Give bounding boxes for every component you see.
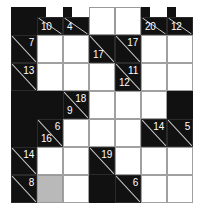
block-cell (11, 119, 37, 147)
entry-cell[interactable] (141, 91, 167, 119)
clue-down-number: 17 (93, 50, 104, 60)
clue-cell: 1112 (115, 63, 141, 91)
clue-across-number: 6 (133, 178, 138, 188)
kakuro-grid[interactable]: 104201271717131112189616145141986 (11, 7, 193, 203)
clue-cell: 8 (11, 175, 37, 203)
entry-cell[interactable] (37, 35, 63, 63)
outside-cell (89, 7, 115, 35)
clue-cell: 14 (141, 119, 167, 147)
clue-across-number: 7 (29, 38, 34, 48)
clue-cell: 7 (11, 35, 37, 63)
clue-down-number: 10 (41, 22, 52, 32)
block-cell (167, 91, 193, 119)
entry-cell[interactable] (167, 147, 193, 175)
clue-across-number: 13 (23, 66, 34, 76)
clue-cell: 616 (37, 119, 63, 147)
entry-cell[interactable] (141, 35, 167, 63)
clue-down-number: 12 (171, 22, 182, 32)
entry-cell[interactable] (141, 63, 167, 91)
clue-across-number: 17 (127, 38, 138, 48)
clue-down-number: 16 (41, 134, 52, 144)
clue-across-number: 14 (153, 122, 164, 132)
clue-down-number: 12 (119, 78, 130, 88)
highlighted-entry-cell[interactable] (37, 175, 63, 203)
clue-across-number: 6 (55, 122, 60, 132)
block-cell (89, 175, 115, 203)
entry-cell[interactable] (37, 63, 63, 91)
clue-cell: 5 (167, 119, 193, 147)
entry-cell[interactable] (63, 35, 89, 63)
entry-cell[interactable] (63, 175, 89, 203)
clue-down-number: 9 (67, 106, 72, 116)
clue-cell: 20 (141, 7, 167, 35)
clue-across-number: 19 (101, 150, 112, 160)
clue-across-number: 8 (29, 178, 34, 188)
clue-cell: 17 (89, 35, 115, 63)
entry-cell[interactable] (115, 147, 141, 175)
clue-across-number: 18 (75, 94, 86, 104)
entry-cell[interactable] (141, 147, 167, 175)
block-cell (37, 91, 63, 119)
clue-cell: 19 (89, 147, 115, 175)
entry-cell[interactable] (37, 147, 63, 175)
entry-cell[interactable] (89, 119, 115, 147)
clue-cell: 17 (115, 35, 141, 63)
clue-cell: 13 (11, 63, 37, 91)
clue-cell: 12 (167, 7, 193, 35)
clue-down-number: 4 (67, 22, 72, 32)
clue-cell: 4 (63, 7, 89, 35)
entry-cell[interactable] (115, 119, 141, 147)
kakuro-puzzle[interactable]: 104201271717131112189616145141986 (11, 7, 193, 203)
clue-across-number: 14 (23, 150, 34, 160)
clue-across-number: 5 (185, 122, 190, 132)
clue-cell: 10 (37, 7, 63, 35)
clue-cell: 189 (63, 91, 89, 119)
screenshot-root: 104201271717131112189616145141986 (0, 0, 204, 211)
entry-cell[interactable] (89, 63, 115, 91)
outside-cell (115, 7, 141, 35)
clue-band: 4 (63, 17, 89, 35)
entry-cell[interactable] (167, 175, 193, 203)
clue-cell: 14 (11, 147, 37, 175)
entry-cell[interactable] (115, 91, 141, 119)
entry-cell[interactable] (167, 63, 193, 91)
entry-cell[interactable] (141, 175, 167, 203)
entry-cell[interactable] (63, 119, 89, 147)
entry-cell[interactable] (63, 147, 89, 175)
clue-band: 20 (141, 17, 167, 35)
entry-cell[interactable] (89, 91, 115, 119)
clue-band: 10 (37, 17, 63, 35)
block-cell (11, 91, 37, 119)
clue-band: 12 (167, 17, 193, 35)
entry-cell[interactable] (167, 35, 193, 63)
block-cell (11, 7, 37, 35)
entry-cell[interactable] (63, 63, 89, 91)
clue-across-number: 11 (128, 66, 138, 76)
clue-cell: 6 (115, 175, 141, 203)
clue-down-number: 20 (145, 22, 156, 32)
